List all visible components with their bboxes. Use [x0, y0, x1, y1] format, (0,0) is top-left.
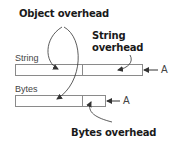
bytes-row-label: Bytes — [15, 84, 38, 94]
object-overhead-to-string-arrow-icon — [48, 27, 62, 69]
object-overhead-to-bytes-arrow-icon — [57, 27, 78, 99]
string-pointer-label: A — [161, 65, 168, 75]
string-overhead-label-line1: String — [92, 30, 125, 41]
diagram-canvas — [0, 0, 179, 144]
bytes-pointer-label: A — [123, 96, 130, 106]
string-overhead-label-line2: overhead — [92, 42, 143, 53]
bytes-memory-box — [16, 96, 106, 107]
string-row-label: String — [15, 53, 39, 63]
bytes-overhead-label: Bytes overhead — [71, 127, 156, 138]
string-memory-box — [16, 65, 143, 76]
object-overhead-label: Object overhead — [19, 8, 109, 19]
